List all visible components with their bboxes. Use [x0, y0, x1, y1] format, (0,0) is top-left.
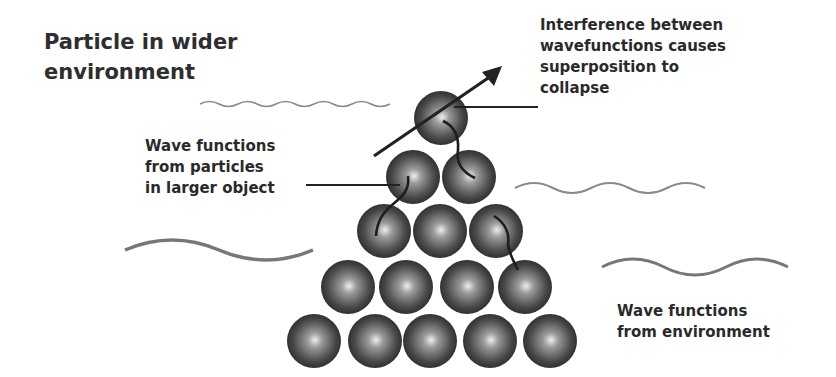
particle-ball — [348, 314, 402, 368]
particle-ball — [440, 260, 494, 314]
diagram-title: Particle in wider environment — [44, 27, 237, 87]
wave-environment-right-lower — [602, 259, 788, 275]
wave-environment-left-lower — [125, 240, 313, 260]
label-environment-wavefunctions: Wave functions from environment — [617, 301, 770, 343]
particle-ball — [379, 260, 433, 314]
wave-environment-right-upper — [515, 183, 705, 193]
particle-ball — [469, 204, 523, 258]
particle-ball — [498, 260, 552, 314]
label-interference: Interference between wavefunctions cause… — [540, 15, 726, 99]
particle-ball — [413, 204, 467, 258]
particle-ball — [463, 314, 517, 368]
particle-ball — [523, 314, 577, 368]
particle-ball — [403, 314, 457, 368]
label-particle-wavefunctions: Wave functions from particles in larger … — [145, 136, 275, 199]
particle-ball — [287, 314, 341, 368]
particle-ball — [386, 150, 440, 204]
particle-ball — [321, 260, 375, 314]
wave-environment-top-left — [200, 102, 390, 107]
particle-ball — [442, 150, 496, 204]
collapse-arrow-head-icon — [482, 66, 502, 86]
particle-pyramid — [287, 91, 577, 368]
